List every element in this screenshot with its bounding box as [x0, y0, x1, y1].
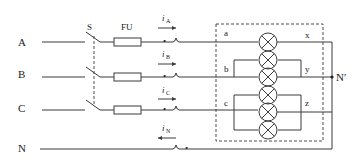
- circuit-diagram: A B C N S FU • • • • i A: [0, 0, 361, 162]
- fuse-a: [114, 38, 141, 46]
- lamp-c1: [259, 86, 277, 104]
- phase-a-label: A: [18, 36, 26, 48]
- ct-b: [173, 73, 179, 77]
- fuse-b: [114, 73, 141, 81]
- ct-n: [173, 145, 179, 149]
- terminal-x: x: [305, 30, 310, 40]
- ct-c: [173, 106, 179, 110]
- terminal-b: b: [224, 64, 229, 74]
- neutral-label: N: [18, 142, 26, 154]
- lamp-a1: [259, 33, 277, 51]
- switch-blade-c: [86, 100, 100, 110]
- lamp-b2: [259, 68, 277, 86]
- terminal-c: c: [224, 98, 228, 108]
- terminal-y: y: [305, 64, 310, 74]
- polarity-dot-n: •: [185, 143, 188, 153]
- current-a: i A: [158, 13, 176, 30]
- svg-text:A: A: [166, 18, 171, 24]
- svg-text:N: N: [166, 128, 171, 134]
- svg-text:i: i: [162, 85, 165, 95]
- svg-text:B: B: [166, 54, 170, 60]
- svg-text:C: C: [166, 90, 170, 96]
- polarity-dot-b: •: [163, 71, 166, 81]
- fuse-label: FU: [121, 22, 133, 32]
- terminal-a: a: [224, 28, 228, 38]
- phase-b-label: B: [18, 68, 25, 80]
- lamp-c2: [259, 103, 277, 121]
- polarity-dot-a: •: [163, 36, 166, 46]
- current-c: i C: [158, 85, 176, 101]
- fuse-c: [114, 106, 141, 114]
- current-b: i B: [158, 49, 176, 66]
- svg-text:i: i: [162, 49, 165, 59]
- ct-a: [173, 38, 179, 42]
- svg-text:i: i: [162, 123, 165, 133]
- neutral-node: [330, 75, 333, 78]
- lamp-b1: [259, 51, 277, 69]
- terminal-z: z: [305, 98, 309, 108]
- lamp-c3: [259, 121, 277, 139]
- switch-label: S: [87, 22, 92, 32]
- svg-text:i: i: [162, 13, 165, 23]
- switch-blade-a: [86, 32, 100, 42]
- switch-blade-b: [86, 67, 100, 77]
- phase-c-label: C: [18, 102, 25, 114]
- current-n: i N: [158, 123, 176, 140]
- polarity-dot-c: •: [163, 104, 166, 114]
- neutral-point-label: N′: [336, 71, 346, 83]
